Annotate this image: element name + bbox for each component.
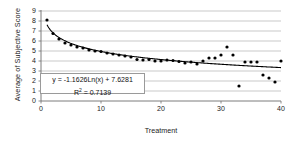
r-squared-exponent: 2 [79, 87, 82, 93]
regression-equation-text: y = -1.1626Ln(x) + 7.6281 [41, 75, 144, 85]
chart-container: Average of Subjective Score Treatment 01… [0, 0, 295, 146]
regression-equation-box: y = -1.1626Ln(x) + 7.6281 R2 = 0.7139 [40, 73, 145, 94]
r-squared-text: R2 = 0.7139 [41, 85, 144, 98]
r-squared-value: = 0.7139 [84, 89, 111, 96]
